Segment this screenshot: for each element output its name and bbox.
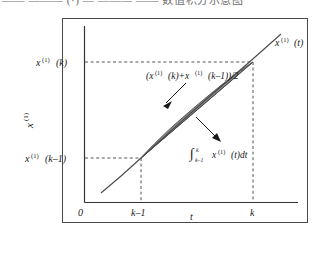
- y-tick-upper-sup: (1): [42, 56, 50, 64]
- annotation-mean-s2: (1): [195, 69, 202, 77]
- curve-label-arg: (t): [294, 37, 304, 49]
- annotation-integral-sup: (1): [218, 148, 225, 156]
- x-tick-label-kminus1: k–1: [131, 207, 145, 218]
- y-tick-lower-base: x: [24, 153, 30, 164]
- x-axis-label: t: [190, 211, 193, 222]
- annotation-integral-upper-limit: k: [196, 147, 199, 153]
- annotation-integral-lower-limit: k–1: [195, 157, 203, 163]
- cut-off-header-text: —— ——— (·) — ——— —— 数值积分示意图: [2, 0, 244, 7]
- y-axis-label-base: x: [23, 123, 35, 129]
- curve-label: x (1) (t): [274, 36, 304, 50]
- y-tick-label-upper: x (1) (k): [35, 56, 68, 70]
- cut-off-header-strip: —— ——— (·) — ——— —— 数值积分示意图: [0, 0, 322, 13]
- annotation-mean-p2: (k)+x: [168, 71, 190, 82]
- annotation-integral-tail: (t)dt: [231, 150, 248, 161]
- x-tick-label-k: k: [250, 207, 255, 218]
- annotation-trapezoid-mean: (x (1) (k)+x (1) (k–1))/2: [146, 69, 239, 82]
- annotation-mean-s1: (1): [155, 69, 162, 77]
- y-tick-upper-base: x: [35, 57, 41, 68]
- figure-container: —— ——— (·) — ——— —— 数值积分示意图: [0, 0, 322, 256]
- arrow-line-mean: [166, 83, 186, 103]
- y-tick-label-lower: x (1) (k–1): [24, 152, 67, 166]
- curve-label-sup: (1): [281, 36, 289, 44]
- curve-label-base: x: [274, 37, 280, 48]
- y-axis-label-sup: (1): [22, 112, 30, 121]
- annotation-mean-p1: (x: [146, 71, 154, 82]
- curve-x1-t: [101, 34, 281, 193]
- origin-label: 0: [78, 207, 83, 218]
- y-tick-lower-arg: (k–1): [45, 153, 67, 165]
- y-tick-lower-sup: (1): [31, 152, 39, 160]
- annotation-mean-p3: (k–1))/2: [208, 71, 239, 82]
- y-tick-upper-arg: (k): [56, 57, 68, 69]
- figure-svg: x (1) x (1) (k) x (1) (k–1) 0 k–1 k t x …: [0, 0, 322, 256]
- annotation-integral-body: x: [211, 150, 217, 160]
- annotation-integral: ∫ k–1 k x (1) (t)dt: [189, 146, 248, 163]
- y-axis-label: x (1): [22, 112, 35, 129]
